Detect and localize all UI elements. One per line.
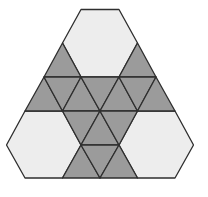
tiling-figure <box>0 0 208 197</box>
